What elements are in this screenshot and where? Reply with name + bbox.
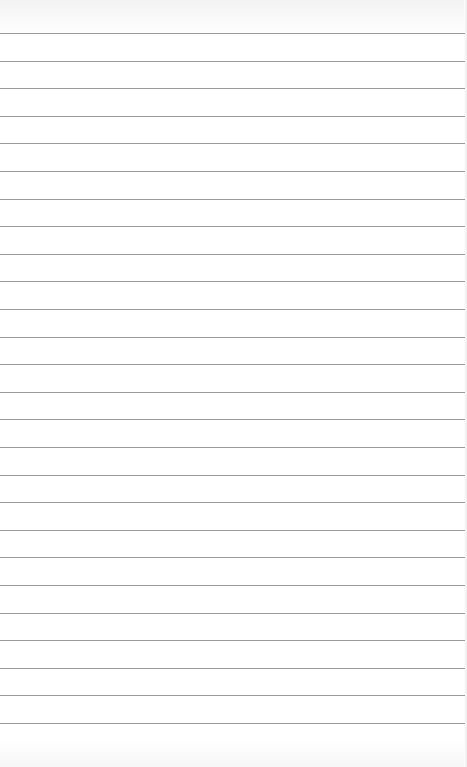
ruled-line xyxy=(0,695,465,696)
ruled-line xyxy=(0,199,465,200)
ruled-line xyxy=(0,640,465,641)
ruled-line xyxy=(0,723,465,724)
ruled-line xyxy=(0,281,465,282)
ruled-line xyxy=(0,475,465,476)
ruled-line xyxy=(0,88,465,89)
ruled-line xyxy=(0,337,465,338)
ruled-line xyxy=(0,364,465,365)
ruled-line xyxy=(0,530,465,531)
ruled-line xyxy=(0,557,465,558)
ruled-line xyxy=(0,309,465,310)
lined-paper-sheet xyxy=(0,0,467,767)
ruled-line xyxy=(0,613,465,614)
ruled-line xyxy=(0,171,465,172)
ruled-line xyxy=(0,585,465,586)
ruled-line xyxy=(0,668,465,669)
ruled-line xyxy=(0,116,465,117)
ruled-line xyxy=(0,254,465,255)
ruled-line xyxy=(0,226,465,227)
ruled-line xyxy=(0,502,465,503)
ruled-line xyxy=(0,61,465,62)
ruled-line xyxy=(0,33,465,34)
ruled-line xyxy=(0,143,465,144)
ruled-line xyxy=(0,392,465,393)
ruled-line xyxy=(0,447,465,448)
ruled-line xyxy=(0,419,465,420)
